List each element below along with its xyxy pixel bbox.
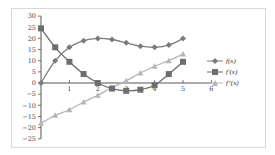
y-tick-label: −25 [22, 135, 36, 143]
legend-label: f(x) [226, 57, 236, 65]
data-point-triangle [95, 92, 101, 98]
y-tick-label: −15 [22, 113, 36, 121]
data-point-square [152, 82, 158, 88]
x-tick-label: 2 [96, 85, 100, 93]
data-point-diamond [180, 35, 186, 41]
data-point-square [109, 86, 115, 92]
data-point-diamond [81, 38, 87, 44]
y-tick-label: 25 [28, 24, 36, 32]
y-tick-label: 15 [28, 46, 36, 54]
y-tick-label: 0 [32, 79, 36, 87]
y-tick-label: 20 [28, 35, 36, 43]
data-point-square [66, 59, 72, 65]
chart-legend: f(x) f′(x) f″(x) [207, 55, 239, 88]
x-tick-label: 5 [181, 85, 185, 93]
data-point-diamond [123, 40, 129, 46]
legend-item-f-double-prime: f″(x) [207, 77, 239, 88]
data-point-diamond [137, 43, 143, 49]
data-point-triangle [123, 78, 129, 84]
data-point-square [123, 88, 129, 94]
data-point-diamond [95, 35, 101, 41]
data-point-triangle [180, 51, 186, 57]
data-point-diamond [152, 44, 158, 50]
legend-item-f: f(x) [207, 55, 239, 66]
data-point-diamond [109, 37, 115, 43]
data-point-square [180, 59, 186, 65]
data-point-diamond [38, 80, 44, 86]
data-point-square [52, 44, 58, 50]
legend-item-f-prime: f′(x) [207, 66, 239, 77]
y-tick-label: −10 [22, 102, 36, 110]
data-point-triangle [81, 99, 87, 105]
data-point-square [95, 80, 101, 86]
data-point-triangle [66, 107, 72, 113]
data-point-square [166, 71, 172, 77]
data-point-triangle [137, 70, 143, 76]
legend-label: f″(x) [226, 79, 239, 87]
x-tick-label: 1 [67, 85, 71, 93]
data-point-diamond [166, 42, 172, 48]
triangle-marker-icon [207, 79, 223, 87]
series-line [41, 38, 183, 83]
data-point-square [137, 87, 143, 93]
data-point-square [81, 71, 87, 77]
diamond-marker-icon [207, 57, 223, 65]
square-marker-icon [207, 68, 223, 76]
legend-label: f′(x) [226, 68, 237, 76]
data-point-triangle [38, 120, 44, 126]
y-tick-label: 5 [32, 68, 36, 76]
y-tick-label: 10 [28, 57, 36, 65]
data-point-square [38, 25, 44, 31]
y-tick-label: −20 [22, 124, 36, 132]
y-tick-label: 30 [28, 12, 36, 20]
y-tick-label: −5 [26, 90, 36, 98]
